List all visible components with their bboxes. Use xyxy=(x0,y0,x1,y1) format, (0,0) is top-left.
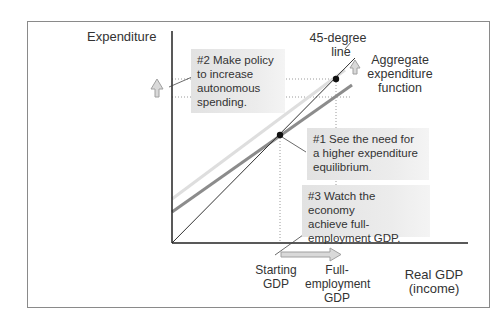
full-employment-gdp-label: Full- employment GDP xyxy=(305,263,369,305)
line-45-label-line1: 45-degree xyxy=(306,31,370,45)
callout-step1: #1 See the need for a higher expenditure… xyxy=(307,128,429,180)
callout-step2-line3: autonomous xyxy=(197,81,279,95)
callout-step2-line2: to increase xyxy=(197,67,279,81)
new-equilibrium-point xyxy=(333,76,339,82)
y-axis-label: Expenditure xyxy=(87,30,156,44)
callout-step1-line1: #1 See the need for xyxy=(313,132,423,146)
x-axis-label-line1: Real GDP xyxy=(394,268,474,282)
ae-label-line3: function xyxy=(360,81,440,95)
starting-gdp-line1: Starting xyxy=(244,263,308,277)
up-arrow-icon xyxy=(151,79,163,97)
starting-gdp-label: Starting GDP xyxy=(244,263,308,291)
callout-step2-line4: spending. xyxy=(197,95,279,109)
x-axis-label-line2: (income) xyxy=(394,282,474,296)
right-arrow-icon xyxy=(281,248,341,261)
full-gdp-line3: GDP xyxy=(305,291,369,305)
callout-step1-line2: a higher expenditure xyxy=(313,146,423,160)
ae-label-line1: Aggregate xyxy=(360,53,440,67)
full-gdp-line2: employment xyxy=(305,277,369,291)
callout-step3: #3 Watch the economy achieve full- emplo… xyxy=(302,185,430,237)
callout-step2-line1: #2 Make policy xyxy=(197,53,279,67)
callout-step1-line3: equilibrium. xyxy=(313,160,423,174)
callout-step3-line2: achieve full- xyxy=(308,217,424,231)
leader-step1 xyxy=(282,137,306,152)
callout-step3-line1: #3 Watch the economy xyxy=(308,189,424,217)
x-axis-label: Real GDP (income) xyxy=(394,268,474,296)
ae-label-line2: expenditure xyxy=(360,67,440,81)
callout-step3-line3: employment GDP. xyxy=(308,231,424,245)
ae-function-label: Aggregate expenditure function xyxy=(360,53,440,95)
starting-gdp-line2: GDP xyxy=(244,277,308,291)
callout-step2: #2 Make policy to increase autonomous sp… xyxy=(191,49,285,113)
full-gdp-line1: Full- xyxy=(305,263,369,277)
